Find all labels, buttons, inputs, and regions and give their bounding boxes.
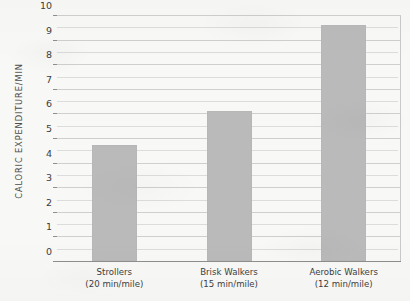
- plot-border-right: [400, 16, 401, 262]
- y-tick-mark: [53, 15, 57, 16]
- y-tick-label: 7: [46, 73, 52, 84]
- x-category-pace: (15 min/mile): [172, 279, 287, 291]
- x-axis-line: [53, 261, 401, 262]
- x-category-name: Aerobic Walkers: [309, 267, 378, 277]
- y-tick-label: 1: [46, 221, 52, 232]
- y-tick-mark: [53, 89, 57, 90]
- y-tick-label: 0: [46, 246, 52, 257]
- plot-area: 012345678910: [57, 16, 401, 262]
- y-tick-mark: [53, 64, 57, 65]
- x-category-pace: (12 min/mile): [286, 279, 401, 291]
- y-tick-mark: [53, 163, 57, 164]
- gridline-major: [57, 15, 401, 16]
- x-category-pace: (20 min/mile): [57, 279, 172, 291]
- y-axis-title: CALORIC EXPENDITURE/MIN: [10, 0, 28, 262]
- x-category-label: Brisk Walkers(15 min/mile): [172, 267, 287, 290]
- y-tick-label: 3: [46, 172, 52, 183]
- bar: [321, 25, 366, 261]
- bar: [207, 111, 252, 261]
- x-category-name: Strollers: [97, 267, 133, 277]
- bar: [92, 145, 137, 261]
- x-category-label: Strollers(20 min/mile): [57, 267, 172, 290]
- y-tick-label: 10: [40, 0, 52, 11]
- y-tick-label: 5: [46, 123, 52, 134]
- y-tick-mark: [53, 236, 57, 237]
- x-category-name: Brisk Walkers: [200, 267, 258, 277]
- y-tick-label: 4: [46, 147, 52, 158]
- y-tick-label: 6: [46, 98, 52, 109]
- x-category-label: Aerobic Walkers(12 min/mile): [286, 267, 401, 290]
- y-tick-mark: [53, 212, 57, 213]
- y-tick-label: 2: [46, 196, 52, 207]
- y-tick-label: 8: [46, 49, 52, 60]
- y-tick-mark: [53, 138, 57, 139]
- bar-chart: CALORIC EXPENDITURE/MIN 012345678910 Str…: [0, 0, 410, 301]
- y-tick-mark: [53, 187, 57, 188]
- y-tick-mark: [53, 113, 57, 114]
- y-tick-label: 9: [46, 24, 52, 35]
- y-tick-mark: [53, 40, 57, 41]
